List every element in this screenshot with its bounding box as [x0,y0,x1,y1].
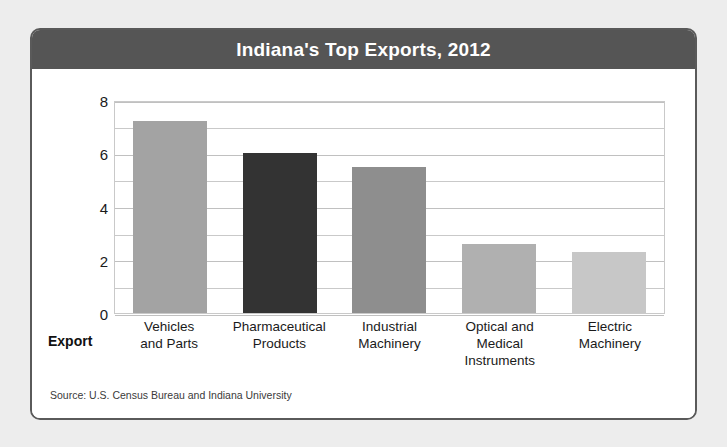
x-axis-category-label: Optical and MedicalInstruments [445,318,555,369]
x-axis-category-label: PharmaceuticalProducts [224,318,334,352]
chart-title: Indiana's Top Exports, 2012 [236,39,491,61]
x-axis-label: Export [48,333,92,349]
bar [352,167,426,313]
x-axis-category-label-line: Machinery [334,335,444,352]
x-axis-category-label-line: Electric [555,318,665,335]
x-axis-category-label: ElectricMachinery [555,318,665,352]
x-axis-category-label: IndustrialMachinery [334,318,444,352]
y-axis-tick-label: 0 [78,306,108,323]
y-axis-tick-label: 4 [78,199,108,216]
y-axis-tick-label: 8 [78,93,108,110]
y-axis-tick-label: 2 [78,252,108,269]
chart-title-bar: Indiana's Top Exports, 2012 [32,30,695,69]
bar-series [115,102,664,313]
page-background: Indiana's Top Exports, 2012 Millions of … [0,0,727,447]
bar [572,252,646,313]
chart-body: Millions of dollars 02468 Export Vehicle… [32,69,695,420]
x-axis-category-label-line: Optical and Medical [445,318,555,352]
x-axis-tick-labels: Vehiclesand PartsPharmaceuticalProductsI… [114,318,665,364]
y-axis-ticks: 02468 [72,101,108,314]
source-note: Source: U.S. Census Bureau and Indiana U… [50,389,292,401]
chart-card: Indiana's Top Exports, 2012 Millions of … [30,28,697,420]
x-axis-category-label-line: Instruments [445,352,555,369]
plot-area [114,101,665,314]
bar [462,244,536,313]
x-axis-category-label-line: Pharmaceutical [224,318,334,335]
x-axis-category-label-line: and Parts [114,335,224,352]
x-axis-category-label: Vehiclesand Parts [114,318,224,352]
y-axis-tick-label: 6 [78,146,108,163]
bar [133,121,207,313]
bar [243,153,317,313]
x-axis-category-label-line: Vehicles [114,318,224,335]
x-axis-category-label-line: Industrial [334,318,444,335]
x-axis-category-label-line: Machinery [555,335,665,352]
gridline [115,315,664,316]
x-axis-category-label-line: Products [224,335,334,352]
